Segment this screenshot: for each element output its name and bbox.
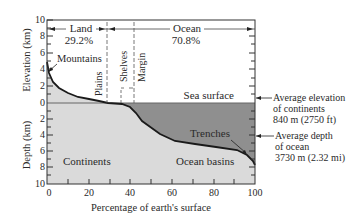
avg-depth-value: 3730 m (2.32 mi)	[275, 152, 345, 164]
hypsometric-diagram: Land 29.2% Ocean 70.8% Mountains Plains …	[0, 0, 364, 220]
svg-text:6: 6	[40, 47, 45, 58]
continents-label: Continents	[63, 155, 111, 167]
avg-depth-label: Average depth	[275, 130, 333, 141]
depth-axis-label: Depth (km)	[21, 120, 33, 169]
arrow-left-icon	[256, 134, 261, 138]
avg-elevation-label: Average elevation	[273, 92, 345, 103]
svg-text:8: 8	[40, 30, 45, 41]
margin-label: Margin	[136, 53, 147, 82]
svg-text:10: 10	[35, 178, 45, 189]
trenches-label: Trenches	[190, 127, 230, 139]
shelves-bracket	[121, 88, 124, 103]
elevation-axis-label: Elevation (km)	[21, 28, 33, 92]
svg-text:2: 2	[40, 80, 45, 91]
svg-text:8: 8	[40, 161, 45, 172]
arrow-left-icon	[256, 96, 261, 100]
sea-surface-label: Sea surface	[184, 89, 235, 101]
svg-text:10: 10	[35, 14, 45, 25]
ocean-basins-label: Ocean basins	[176, 155, 234, 167]
svg-text:60: 60	[167, 187, 177, 198]
svg-text:40: 40	[125, 187, 135, 198]
x-axis-label: Percentage of earth's surface	[91, 202, 211, 213]
x-tick-labels: 02040 6080100	[47, 187, 263, 198]
svg-text:0: 0	[47, 187, 52, 198]
avg-elevation-label-line2: of continents	[273, 103, 325, 114]
svg-text:2: 2	[40, 113, 45, 124]
arrow-right-icon	[247, 27, 253, 31]
svg-text:6: 6	[40, 145, 45, 156]
y-tick-labels: 1086 420 246 810	[35, 14, 45, 189]
land-label: Land	[70, 22, 93, 34]
svg-text:80: 80	[209, 187, 219, 198]
avg-depth-label-line2: of ocean	[275, 141, 309, 152]
arrow-left-icon	[109, 27, 115, 31]
avg-elevation-value: 840 m (2750 ft)	[273, 114, 336, 126]
svg-text:20: 20	[84, 187, 94, 198]
land-percent: 29.2%	[65, 34, 93, 46]
svg-text:0: 0	[40, 97, 45, 108]
ocean-percent: 70.8%	[172, 34, 200, 46]
arrow-right-icon	[99, 27, 105, 31]
mountains-label: Mountains	[57, 53, 102, 64]
svg-text:4: 4	[40, 63, 45, 74]
plains-label: Plains	[93, 71, 104, 96]
svg-text:100: 100	[248, 187, 263, 198]
svg-text:4: 4	[40, 129, 45, 140]
ocean-label: Ocean	[173, 22, 202, 34]
shelves-label: Shelves	[118, 51, 129, 82]
